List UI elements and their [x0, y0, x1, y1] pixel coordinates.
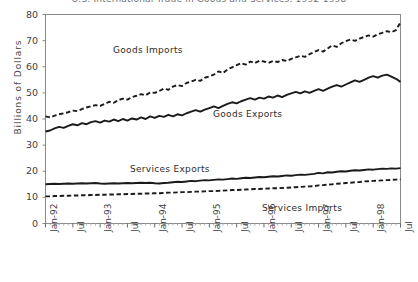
x-tick-label: Jul [405, 221, 414, 232]
x-tick-label: Jul [241, 221, 250, 232]
plot-frame [46, 15, 401, 224]
series-line-services-exports [46, 168, 401, 184]
chart-figure: U.S. International Trade in Goods and Se… [0, 0, 418, 282]
series-line-goods-imports [46, 22, 401, 117]
series-line-services-imports [46, 179, 401, 196]
x-tick-label: Jul [131, 221, 140, 232]
series-annotation: Services Exports [130, 164, 210, 174]
axes [46, 15, 401, 224]
series-annotation: Goods Imports [113, 45, 183, 55]
x-tick-label: Jan-98 [377, 203, 386, 232]
x-tick-label: Jan-95 [213, 203, 222, 232]
x-tick-label: Jan-92 [50, 203, 59, 232]
x-tick-label: Jul [295, 221, 304, 232]
series-annotation: Goods Exports [213, 109, 282, 119]
x-tick-label: Jan-94 [159, 203, 168, 232]
series-annotation: Services Imports [262, 203, 342, 213]
series-line-goods-exports [46, 75, 401, 132]
x-tick-label: Jul [77, 221, 86, 232]
x-tick-label: Jul [350, 221, 359, 232]
x-tick-label: Jan-93 [104, 203, 113, 232]
plot-area [0, 0, 418, 282]
x-tick-label: Jul [186, 221, 195, 232]
